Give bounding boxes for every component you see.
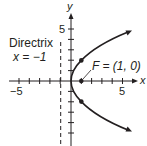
focus-point <box>79 79 84 84</box>
parabola-graph: y x 5 −5 5 Directrix x = −1 F = (1, 0) <box>0 0 147 146</box>
focus-label: F = (1, 0) <box>92 59 141 73</box>
tick-label-pos5: 5 <box>119 85 125 97</box>
latus-point-lower <box>79 99 84 104</box>
directrix-equation: x = −1 <box>12 50 46 64</box>
directrix-title: Directrix <box>9 36 53 50</box>
x-axis <box>9 78 138 84</box>
tick-label-neg5: −5 <box>10 85 23 97</box>
x-axis-label: x <box>139 74 146 86</box>
focus-leader-line <box>83 70 91 79</box>
tick-label-y5: 5 <box>59 23 65 35</box>
latus-point-upper <box>79 58 84 63</box>
y-axis-label: y <box>66 0 74 12</box>
